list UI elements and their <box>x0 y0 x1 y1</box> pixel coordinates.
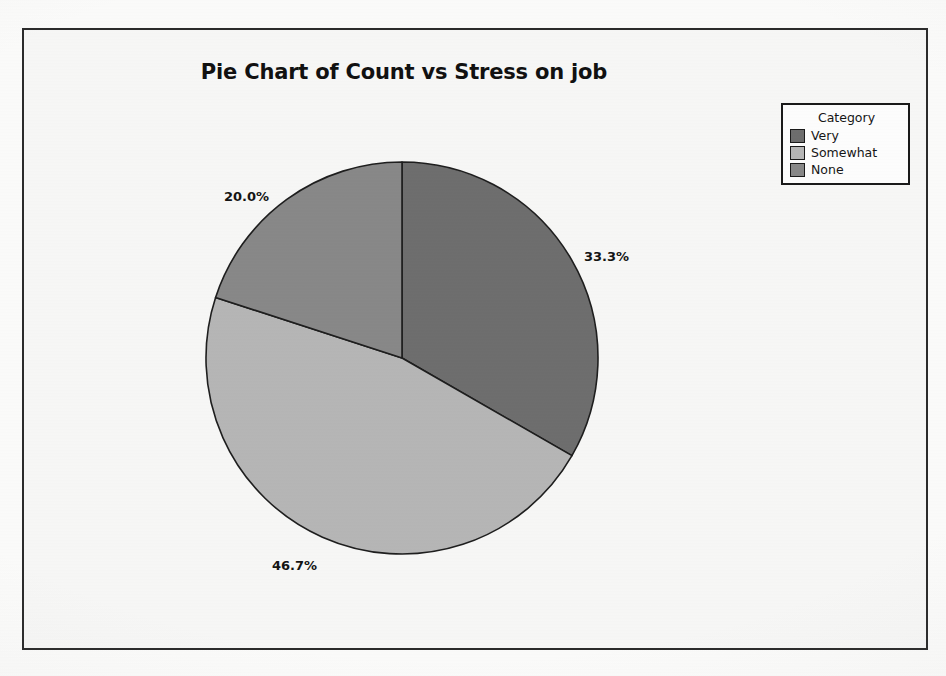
legend-box: Category Very Somewhat None <box>781 103 910 185</box>
scanned-page: Pie Chart of Count vs Stress on job 33.3… <box>0 0 946 676</box>
legend-label-very: Very <box>811 128 839 143</box>
legend-title: Category <box>792 110 901 125</box>
slice-label-very: 33.3% <box>584 249 629 264</box>
legend-item-none[interactable]: None <box>790 162 901 177</box>
legend-label-somewhat: Somewhat <box>811 145 877 160</box>
slice-label-somewhat: 46.7% <box>272 558 317 573</box>
legend-item-very[interactable]: Very <box>790 128 901 143</box>
legend-swatch-very <box>790 129 805 143</box>
chart-frame: Pie Chart of Count vs Stress on job 33.3… <box>22 28 928 650</box>
slice-label-none: 20.0% <box>224 189 269 204</box>
pie-slices <box>206 162 598 554</box>
legend-swatch-somewhat <box>790 146 805 160</box>
legend-label-none: None <box>811 162 844 177</box>
legend-item-somewhat[interactable]: Somewhat <box>790 145 901 160</box>
legend-swatch-none <box>790 163 805 177</box>
pie-chart-svg <box>202 158 602 558</box>
